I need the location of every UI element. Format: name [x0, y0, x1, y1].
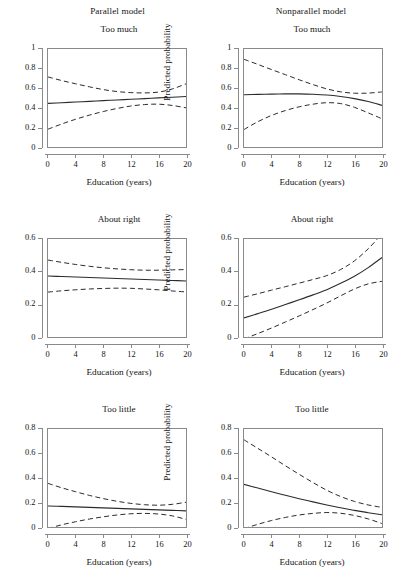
- plot-curves: [244, 49, 382, 147]
- panel-title: About right: [195, 214, 393, 224]
- confidence-interval-curve: [244, 513, 382, 527]
- predicted-probability-curve: [244, 94, 382, 106]
- y-axis-line: [42, 428, 43, 528]
- y-tick: 0.8: [234, 68, 238, 69]
- y-tick-label: 0.2: [221, 123, 231, 133]
- x-tick: 8: [103, 534, 104, 538]
- y-tick-label: 0.4: [25, 266, 35, 276]
- y-tick-label: 0.4: [221, 473, 231, 483]
- x-tick: 4: [271, 534, 272, 538]
- plot-area: [243, 428, 383, 528]
- x-tick-label: 12: [323, 540, 331, 550]
- y-tick: 0: [38, 338, 42, 339]
- y-tick-label: 0.4: [25, 473, 35, 483]
- y-tick: 0: [234, 338, 238, 339]
- x-tick: 12: [327, 154, 328, 158]
- predicted-probability-curve: [48, 506, 186, 511]
- x-tick-label: 8: [297, 350, 301, 360]
- y-tick: 0: [234, 528, 238, 529]
- x-tick-label: 4: [73, 160, 77, 170]
- panel-title: Too much: [195, 24, 393, 34]
- x-tick: 16: [355, 534, 356, 538]
- confidence-interval-curve: [244, 281, 382, 337]
- y-tick-label: 0: [227, 143, 231, 153]
- x-tick: 16: [159, 154, 160, 158]
- y-tick: 1: [234, 48, 238, 49]
- y-tick: 0.2: [234, 305, 238, 306]
- confidence-interval-curve: [48, 513, 186, 527]
- x-tick: 4: [271, 154, 272, 158]
- x-axis-label: Education (years): [0, 557, 198, 567]
- y-tick-label: 1: [227, 43, 231, 53]
- y-tick-label: 0.6: [25, 448, 35, 458]
- x-tick-label: 16: [351, 160, 359, 170]
- y-tick-label: 0.6: [221, 233, 231, 243]
- y-tick: 0.4: [38, 108, 42, 109]
- y-tick-label: 0.2: [25, 498, 35, 508]
- x-tick: 12: [131, 344, 132, 348]
- x-tick-label: 20: [183, 540, 191, 550]
- confidence-interval-curve: [244, 440, 382, 508]
- y-tick-label: 0.6: [221, 83, 231, 93]
- plot-area: [243, 48, 383, 148]
- y-axis-line: [42, 48, 43, 148]
- x-tick-label: 4: [269, 350, 273, 360]
- x-tick: 16: [355, 154, 356, 158]
- panel-nonparallel-too-much: Too much Predicted probability Education…: [195, 22, 393, 212]
- x-tick-label: 12: [323, 160, 331, 170]
- y-axis-line: [238, 48, 239, 148]
- x-tick-label: 20: [379, 540, 387, 550]
- x-tick-label: 8: [101, 350, 105, 360]
- x-tick: 20: [187, 154, 188, 158]
- x-tick: 20: [383, 344, 384, 348]
- x-tick-label: 8: [297, 540, 301, 550]
- x-tick: 0: [243, 344, 244, 348]
- y-tick: 0.2: [38, 305, 42, 306]
- x-axis-label: Education (years): [195, 177, 393, 187]
- x-tick: 8: [103, 344, 104, 348]
- y-tick-label: 0.4: [25, 103, 35, 113]
- x-tick-label: 20: [379, 350, 387, 360]
- x-tick: 16: [355, 344, 356, 348]
- y-tick: 0.2: [38, 503, 42, 504]
- y-tick: 1: [38, 48, 42, 49]
- x-tick-label: 4: [73, 540, 77, 550]
- y-tick: 0.6: [234, 238, 238, 239]
- x-tick: 4: [75, 154, 76, 158]
- y-tick: 0.6: [38, 238, 42, 239]
- x-axis-label: Education (years): [195, 557, 393, 567]
- x-tick: 0: [243, 154, 244, 158]
- x-axis-label: Education (years): [0, 367, 198, 377]
- x-tick: 12: [131, 534, 132, 538]
- x-tick-label: 4: [269, 160, 273, 170]
- x-tick: 0: [47, 534, 48, 538]
- x-tick-label: 20: [183, 350, 191, 360]
- y-tick-label: 0: [227, 333, 231, 343]
- y-tick-label: 0.8: [221, 423, 231, 433]
- x-axis-line: [45, 154, 190, 155]
- y-axis-line: [42, 238, 43, 338]
- y-tick: 0.4: [38, 271, 42, 272]
- y-tick-label: 0: [31, 333, 35, 343]
- panel-title: Too little: [195, 404, 393, 414]
- plot-curves: [244, 239, 382, 337]
- y-tick: 0.6: [234, 88, 238, 89]
- y-tick-label: 0.6: [221, 448, 231, 458]
- x-axis-line: [241, 344, 386, 345]
- x-tick: 8: [103, 154, 104, 158]
- x-tick: 0: [243, 534, 244, 538]
- plot-area: [243, 238, 383, 338]
- y-axis-line: [238, 238, 239, 338]
- x-axis-line: [241, 534, 386, 535]
- y-tick: 0.4: [38, 478, 42, 479]
- y-tick: 0.8: [234, 428, 238, 429]
- x-tick-label: 4: [269, 540, 273, 550]
- x-tick: 12: [327, 534, 328, 538]
- x-tick-label: 16: [155, 540, 163, 550]
- y-tick: 0.8: [38, 68, 42, 69]
- y-tick: 0.6: [234, 453, 238, 454]
- y-tick: 0: [38, 148, 42, 149]
- x-tick: 8: [299, 154, 300, 158]
- x-tick: 4: [271, 344, 272, 348]
- y-tick-label: 0.6: [25, 83, 35, 93]
